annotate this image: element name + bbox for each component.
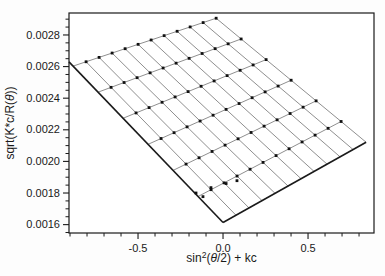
data-point [264,90,267,93]
y-tick-label: 0.0020 [26,155,60,167]
plot-canvas: -0.50.00.50.00160.00180.00200.00220.0024… [0,0,385,276]
extrapolated-point [195,192,198,195]
data-point [174,96,177,99]
data-point [263,125,266,128]
data-point [224,144,227,147]
data-point [124,47,127,50]
data-point [186,125,189,128]
x-tick-label: 0.5 [300,242,315,254]
extrapolated-point [225,182,228,185]
data-point [137,43,140,46]
data-point [225,108,228,111]
data-point [136,76,139,79]
data-point [314,134,317,137]
data-point [213,80,216,83]
data-point [175,62,178,65]
data-point [276,118,279,121]
data-point [277,85,280,88]
data-point [98,56,101,59]
data-point [301,141,304,144]
data-point [252,64,255,67]
data-point [340,120,343,123]
data-point [176,30,179,33]
data-point [327,127,330,130]
data-point [226,74,229,77]
extrapolated-point [210,186,213,189]
data-point [150,39,153,42]
y-tick-label: 0.0028 [26,29,60,41]
data-point [239,69,242,72]
data-point [185,163,188,166]
data-point [202,21,205,24]
data-point [240,38,243,41]
data-point [302,106,305,109]
data-point [173,131,176,134]
data-point [211,150,214,153]
data-point [249,168,252,171]
y-axis-title: sqrt(K*c/R(θ)) [3,86,17,159]
data-point [189,26,192,29]
data-point [289,112,292,115]
data-point [198,156,201,159]
y-tick-label: 0.0026 [26,60,60,72]
data-point [238,102,241,105]
data-point [148,106,151,109]
data-point [262,161,265,164]
data-point [201,52,204,55]
data-point [315,99,318,102]
data-point [212,114,215,117]
y-tick-label: 0.0022 [26,123,60,135]
data-point [161,101,164,104]
data-point [290,79,293,82]
x-tick-label: -0.5 [129,242,148,254]
zimm-plot-figure: -0.50.00.50.00160.00180.00200.00220.0024… [0,0,385,276]
y-tick-label: 0.0016 [26,218,60,230]
extrapolated-point [236,179,239,182]
data-point [288,147,291,150]
data-point [135,112,138,115]
data-point [110,86,113,89]
data-point [265,58,268,61]
data-point [215,17,218,20]
data-point [250,131,253,134]
data-point [123,81,126,84]
y-tick-label: 0.0018 [26,187,60,199]
data-point [275,154,278,157]
data-point [227,42,230,45]
x-axis-title: sin2(θ/2) + kc [186,250,256,265]
data-point [162,67,165,70]
data-point [111,52,114,55]
data-point [200,85,203,88]
data-point [188,57,191,60]
data-point [214,47,217,50]
data-point [237,137,240,140]
data-point [163,34,166,37]
data-point [236,175,239,178]
y-tick-label: 0.0024 [26,92,60,104]
data-point [149,71,152,74]
data-point [160,137,163,140]
data-point [199,120,202,123]
data-point [85,60,88,63]
extrapolated-point [202,195,205,198]
data-point [187,90,190,93]
data-point [251,96,254,99]
